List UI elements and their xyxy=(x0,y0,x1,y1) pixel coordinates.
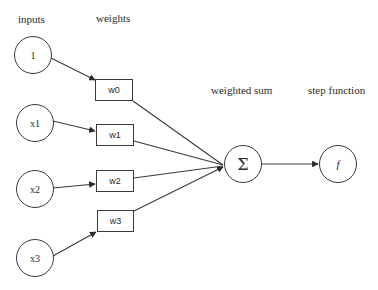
edges-layer xyxy=(0,0,378,290)
weight-label: w2 xyxy=(109,176,121,186)
sum-node: Σ xyxy=(224,145,262,183)
input-label: x1 xyxy=(30,118,40,129)
header-weighted-sum: weighted sum xyxy=(211,84,272,96)
input-node-bias: 1 xyxy=(14,36,52,74)
edge-x2-to-w2 xyxy=(53,184,95,188)
header-weights: weights xyxy=(96,12,130,24)
step-function-node: f xyxy=(319,145,357,183)
weight-box-w1: w1 xyxy=(96,124,134,146)
input-label: x2 xyxy=(30,184,40,195)
function-label: f xyxy=(336,158,339,170)
edge-w0-to-sum xyxy=(133,101,223,165)
edge-x1-to-w1 xyxy=(53,121,95,131)
weight-box-w2: w2 xyxy=(96,170,134,192)
perceptron-diagram: inputs weights weighted sum step functio… xyxy=(0,0,378,290)
edge-w3-to-sum xyxy=(134,167,223,211)
weight-label: w0 xyxy=(108,85,120,95)
weight-box-w3: w3 xyxy=(97,210,134,232)
input-label: 1 xyxy=(31,50,36,61)
sigma-icon: Σ xyxy=(237,155,248,174)
edge-w1-to-sum xyxy=(134,141,223,165)
input-node-x1: x1 xyxy=(16,104,54,142)
header-inputs: inputs xyxy=(18,13,45,25)
edge-w2-to-sum xyxy=(134,166,223,178)
weight-label: w3 xyxy=(110,216,122,226)
edge-x3-to-w3 xyxy=(53,232,96,256)
weight-box-w0: w0 xyxy=(95,79,133,101)
edge-1-to-w0 xyxy=(51,58,95,80)
input-node-x2: x2 xyxy=(16,170,54,208)
weight-label: w1 xyxy=(109,130,121,140)
header-step-function: step function xyxy=(308,84,365,96)
input-node-x3: x3 xyxy=(16,239,54,277)
input-label: x3 xyxy=(30,253,40,264)
